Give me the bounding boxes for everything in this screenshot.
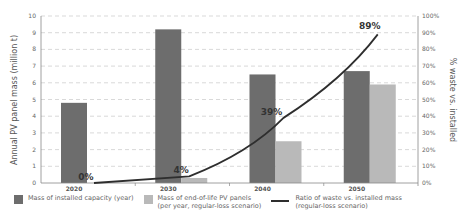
- y2-tick-label: 90%: [422, 29, 436, 36]
- y-tick-label: 1: [32, 162, 36, 169]
- legend-item-eol: Mass of end-of-life PV panels (per year,…: [144, 194, 262, 210]
- y2-tick-label: 60%: [422, 79, 436, 86]
- y2-tick-label: 100%: [422, 12, 439, 19]
- bar-installed: [155, 29, 181, 183]
- y-tick-label: 6: [32, 79, 36, 86]
- y-tick-label: 7: [32, 62, 36, 69]
- y2-axis-ticks: 0%10%20%30%40%50%60%70%80%90%100%: [422, 12, 439, 186]
- y-tick-label: 10: [28, 12, 36, 19]
- x-category-label: 2050: [348, 185, 365, 192]
- ratio-line-path: [94, 34, 378, 183]
- y2-tick-label: 20%: [422, 146, 436, 153]
- y-tick-label: 5: [32, 96, 36, 103]
- y2-tick-label: 0%: [422, 179, 432, 186]
- y2-tick-label: 80%: [422, 45, 436, 52]
- legend-label-ratio: Ratio of waste vs. installed mass (regul…: [295, 194, 402, 210]
- legend-label-installed: Mass of installed capacity (year): [28, 194, 134, 202]
- y-tick-label: 4: [32, 112, 36, 119]
- y-tick-label: 3: [32, 129, 36, 136]
- y-axis-label: Annual PV panel mass (million t): [10, 35, 19, 165]
- bar-eol: [370, 84, 396, 183]
- legend-line-ratio: [271, 200, 289, 202]
- legend-swatch-installed: [14, 195, 23, 204]
- legend-swatch-eol: [144, 195, 153, 204]
- y-tick-label: 9: [32, 29, 36, 36]
- y2-tick-label: 50%: [422, 96, 436, 103]
- legend-item-ratio: Ratio of waste vs. installed mass (regul…: [271, 194, 402, 210]
- y-tick-label: 8: [32, 45, 36, 52]
- y2-tick-label: 40%: [422, 112, 436, 119]
- bar-eol: [181, 178, 207, 183]
- bar-eol: [276, 141, 302, 183]
- ratio-line: 0%4%39%89%: [78, 21, 380, 183]
- y-axis-ticks: 012345678910: [28, 12, 36, 186]
- y2-tick-label: 70%: [422, 62, 436, 69]
- bar-installed: [61, 103, 87, 183]
- x-category-label: 2020: [66, 185, 83, 192]
- bar-installed: [344, 71, 370, 183]
- line-data-label: 89%: [359, 21, 381, 31]
- legend: Mass of installed capacity (year) Mass o…: [14, 194, 412, 210]
- x-category-label: 2040: [254, 185, 271, 192]
- x-category-label: 2030: [160, 185, 177, 192]
- legend-item-installed: Mass of installed capacity (year): [14, 194, 134, 204]
- y2-axis-label: % waste vs. installed: [448, 58, 457, 142]
- line-data-label: 0%: [78, 172, 93, 182]
- combo-chart: 012345678910 0%10%20%30%40%50%60%70%80%9…: [0, 0, 463, 221]
- line-data-label: 39%: [261, 107, 283, 117]
- legend-label-eol: Mass of end-of-life PV panels (per year,…: [158, 194, 262, 210]
- x-axis-categories: 2020203020402050: [66, 183, 365, 192]
- y-tick-label: 2: [32, 146, 36, 153]
- y2-tick-label: 10%: [422, 162, 436, 169]
- line-data-label: 4%: [174, 165, 189, 175]
- y2-tick-label: 30%: [422, 129, 436, 136]
- bars: [61, 29, 396, 183]
- y-tick-label: 0: [32, 179, 36, 186]
